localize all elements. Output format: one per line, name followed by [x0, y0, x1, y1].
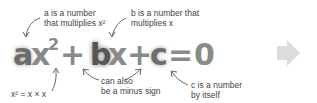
b-pointer-arrow: [112, 18, 126, 36]
a-annotation: a is a number that multiplies x²: [44, 8, 105, 28]
sign-annotation: can also be a minus sign: [101, 76, 161, 96]
zero: 0: [194, 40, 215, 70]
a-pointer-arrow: [26, 18, 40, 36]
sign-annotation-line2: be a minus sign: [101, 86, 161, 96]
b-annotation: b is a number that multiplies x: [131, 8, 199, 28]
equals-sign: =: [168, 40, 193, 70]
c-annotation-line2: by itself: [191, 90, 242, 100]
a-annotation-line1: a is a number: [44, 8, 105, 18]
a-annotation-line2: that multiplies x²: [44, 18, 105, 28]
b-annotation-line1: b is a number that: [131, 8, 199, 18]
variable-x: x: [108, 40, 127, 70]
c-annotation: c is a number by itself: [191, 80, 242, 100]
c-annotation-line1: c is a number: [191, 80, 242, 90]
constant-c: c: [150, 40, 168, 70]
b-annotation-line2: multiplies x: [131, 18, 199, 28]
x-squared-annotation: x² = x × x: [11, 89, 46, 99]
x2-pointer-arrow: [52, 70, 56, 91]
plus-sign-1: +: [60, 40, 85, 70]
quadratic-equation-diagram: a is a number that multiplies x² b is a …: [0, 0, 317, 103]
right-arrow-icon: [277, 40, 300, 66]
plus-sign-2: +: [127, 40, 152, 70]
sign-annotation-line1: can also: [101, 76, 161, 86]
exponent-2: 2: [48, 37, 59, 53]
c-pointer-arrow: [172, 72, 188, 85]
